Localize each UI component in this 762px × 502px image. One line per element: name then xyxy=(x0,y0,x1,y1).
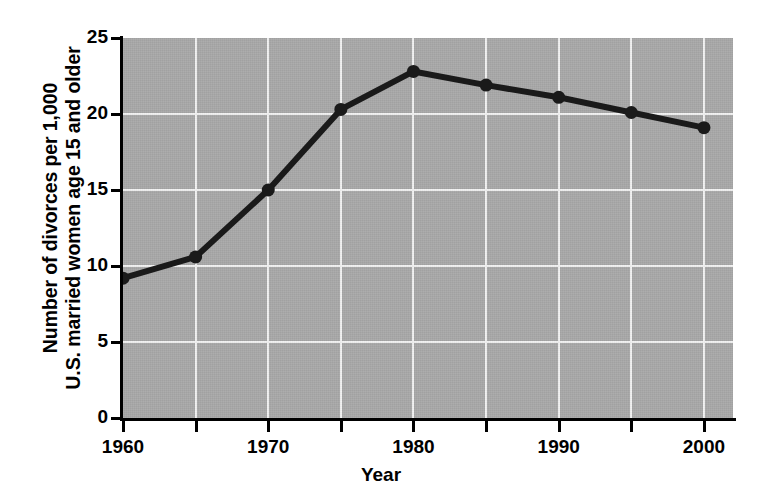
x-tick-1965 xyxy=(195,421,198,432)
y-axis-title: Number of divorces per 1,000 U.S. marrie… xyxy=(32,8,92,428)
data-point-2000 xyxy=(697,121,710,134)
data-point-1995 xyxy=(625,106,638,119)
plot-area xyxy=(123,38,733,418)
x-tick-1995 xyxy=(630,421,633,432)
y-tick-10 xyxy=(111,265,121,268)
data-point-1975 xyxy=(334,103,347,116)
y-tick-5 xyxy=(111,341,121,344)
data-point-1980 xyxy=(407,65,420,78)
x-tick-label-2000: 2000 xyxy=(664,436,744,458)
y-tick-label-15: 15 xyxy=(66,178,108,200)
x-axis-title: Year xyxy=(0,464,762,486)
y-tick-label-25: 25 xyxy=(66,26,108,48)
x-tick-label-1960: 1960 xyxy=(83,436,163,458)
x-tick-1985 xyxy=(485,421,488,432)
x-axis-line xyxy=(120,418,736,421)
y-tick-20 xyxy=(111,113,121,116)
y-tick-25 xyxy=(111,37,121,40)
x-tick-2000 xyxy=(703,421,706,432)
y-tick-label-5: 5 xyxy=(66,330,108,352)
x-tick-1990 xyxy=(558,421,561,432)
y-tick-label-10: 10 xyxy=(66,254,108,276)
x-tick-label-1970: 1970 xyxy=(228,436,308,458)
x-tick-label-1980: 1980 xyxy=(373,436,453,458)
data-series-divorce-rate xyxy=(123,38,733,418)
y-tick-label-0: 0 xyxy=(66,406,108,428)
data-point-1965 xyxy=(189,250,202,263)
x-tick-1960 xyxy=(122,421,125,432)
data-point-1990 xyxy=(552,91,565,104)
data-point-1970 xyxy=(262,184,275,197)
y-tick-label-20: 20 xyxy=(66,102,108,124)
divorce-rate-line-chart: Number of divorces per 1,000 U.S. marrie… xyxy=(0,0,762,502)
data-point-1985 xyxy=(480,79,493,92)
x-tick-1975 xyxy=(340,421,343,432)
x-tick-label-1990: 1990 xyxy=(519,436,599,458)
y-tick-0 xyxy=(111,417,121,420)
x-tick-1980 xyxy=(412,421,415,432)
series-line xyxy=(123,71,704,278)
x-tick-1970 xyxy=(267,421,270,432)
y-tick-15 xyxy=(111,189,121,192)
y-axis-title-line-1: Number of divorces per 1,000 xyxy=(39,83,62,353)
